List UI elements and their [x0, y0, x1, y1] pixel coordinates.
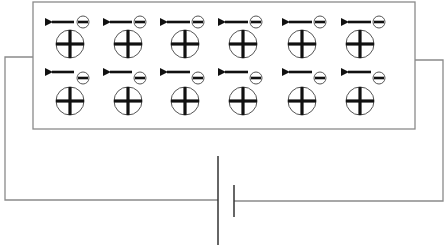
positive-ion-icon: [56, 87, 84, 115]
positive-ion-icon: [288, 30, 316, 58]
electron-icon: [250, 16, 262, 28]
electron-icon: [134, 72, 146, 84]
positive-ion-icon: [171, 30, 199, 58]
electron-icon: [314, 72, 326, 84]
electron-icon: [250, 72, 262, 84]
positive-ion-icon: [114, 87, 142, 115]
electron-icon: [373, 16, 385, 28]
positive-ion-icon: [229, 30, 257, 58]
positive-ion-icon: [288, 87, 316, 115]
positive-ion-icon: [114, 30, 142, 58]
positive-ion-icon: [346, 87, 374, 115]
electron-icon: [192, 16, 204, 28]
electron-icon: [77, 16, 89, 28]
electron-icon: [77, 72, 89, 84]
electron-icon: [192, 72, 204, 84]
positive-ion-icon: [171, 87, 199, 115]
positive-ion-icon: [346, 30, 374, 58]
positive-ion-icon: [56, 30, 84, 58]
conductor-circuit-diagram: [0, 0, 444, 250]
positive-ion-icon: [229, 87, 257, 115]
battery-symbol: [218, 156, 234, 245]
electron-icon: [134, 16, 146, 28]
electron-icon: [373, 72, 385, 84]
electron-icon: [314, 16, 326, 28]
